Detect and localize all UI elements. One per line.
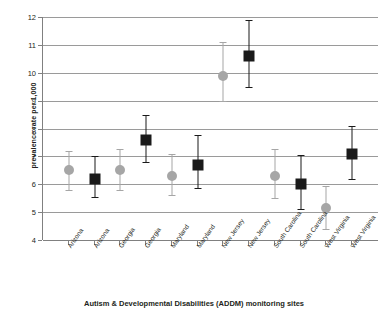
error-bar-cap-upper — [246, 20, 253, 21]
y-tick-label: 5 — [6, 208, 36, 217]
data-point-marker — [295, 179, 306, 190]
y-tick-mark — [38, 129, 42, 130]
y-tick-mark — [38, 156, 42, 157]
data-point-marker — [244, 51, 255, 62]
error-bar-cap-upper — [194, 135, 201, 136]
error-bar-cap-lower — [246, 87, 253, 88]
y-tick-mark — [38, 184, 42, 185]
error-bar-cap-lower — [117, 190, 124, 191]
gridline — [43, 73, 378, 74]
y-tick-label: 12 — [6, 13, 36, 22]
data-point-marker — [64, 165, 74, 175]
prevalence-rate-chart: prevalence rate per 1,000 456789101112 A… — [0, 0, 388, 322]
error-bar-cap-lower — [194, 188, 201, 189]
data-point-marker — [115, 165, 125, 175]
y-tick-label: 11 — [6, 40, 36, 49]
y-tick-mark — [38, 73, 42, 74]
gridline — [43, 17, 378, 18]
data-point-marker — [347, 148, 358, 159]
error-bar-cap-upper — [349, 126, 356, 127]
error-bar-cap-lower — [271, 198, 278, 199]
error-bar-cap-lower — [168, 195, 175, 196]
error-bar-cap-upper — [91, 156, 98, 157]
error-bar-cap-lower — [220, 101, 227, 102]
y-tick-mark — [38, 240, 42, 241]
data-point-marker — [167, 171, 177, 181]
error-bar-cap-upper — [117, 149, 124, 150]
y-tick-label: 7 — [6, 152, 36, 161]
y-tick-label: 10 — [6, 68, 36, 77]
error-bar-cap-lower — [65, 190, 72, 191]
gridline — [43, 45, 378, 46]
data-point-marker — [89, 173, 100, 184]
error-bar-cap-upper — [168, 154, 175, 155]
y-tick-mark — [38, 45, 42, 46]
gridline — [43, 129, 378, 130]
plot-area — [42, 17, 378, 240]
data-point-marker — [270, 171, 280, 181]
error-bar-cap-lower — [91, 197, 98, 198]
y-tick-label: 4 — [6, 236, 36, 245]
y-tick-label: 8 — [6, 124, 36, 133]
y-tick-mark — [38, 17, 42, 18]
error-bar-cap-upper — [271, 149, 278, 150]
y-tick-mark — [38, 212, 42, 213]
error-bar-cap-lower — [143, 162, 150, 163]
error-bar-cap-upper — [65, 151, 72, 152]
x-axis-title: Autism & Developmental Disabilities (ADD… — [0, 299, 388, 308]
data-point-marker — [192, 159, 203, 170]
data-point-marker — [141, 134, 152, 145]
y-tick-label: 9 — [6, 96, 36, 105]
gridline — [43, 101, 378, 102]
data-point-marker — [218, 71, 228, 81]
error-bar-cap-upper — [323, 186, 330, 187]
y-tick-label: 6 — [6, 180, 36, 189]
error-bar-cap-upper — [220, 42, 227, 43]
error-bar-cap-lower — [349, 179, 356, 180]
error-bar-cap-lower — [323, 229, 330, 230]
error-bar-cap-upper — [297, 155, 304, 156]
error-bar-cap-upper — [143, 115, 150, 116]
y-tick-mark — [38, 101, 42, 102]
